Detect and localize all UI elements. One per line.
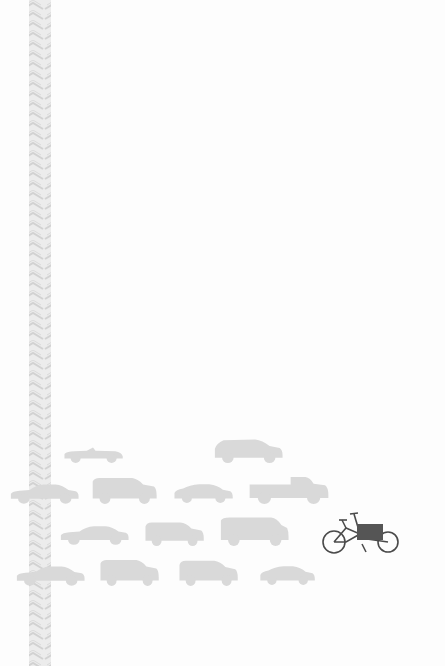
illustration-canvas bbox=[0, 0, 445, 666]
tire-track bbox=[29, 0, 51, 666]
cargo-box bbox=[357, 524, 383, 540]
